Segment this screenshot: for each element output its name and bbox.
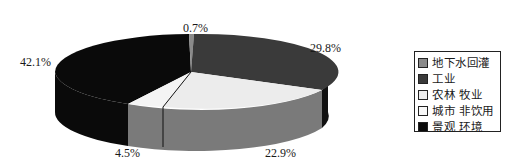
legend-swatch (418, 122, 428, 132)
legend-label: 农林 牧业 (432, 88, 482, 102)
legend-swatch (418, 58, 428, 68)
label-landscape-pct: 42.1% (20, 56, 51, 68)
label-agriculture-pct: 22.9% (265, 147, 296, 159)
legend: 地下水回灌 工业 农林 牧业 城市 非饮用 景观 环境 (414, 51, 501, 132)
legend-swatch (418, 106, 428, 116)
legend-label: 工业 (432, 72, 455, 86)
legend-item-urban: 城市 非饮用 (418, 103, 500, 119)
legend-swatch (418, 90, 428, 100)
legend-item-landscape: 景观 环境 (418, 119, 500, 135)
label-recharge-pct: 0.7% (183, 22, 208, 34)
pie-chart: 0.7% 29.8% 22.9% 4.5% 42.1% 地下水回灌 工业 农林 … (0, 0, 519, 166)
label-industry-pct: 29.8% (310, 42, 341, 54)
legend-swatch (418, 74, 428, 84)
legend-label: 地下水回灌 (432, 56, 490, 70)
label-urban-pct: 4.5% (115, 147, 140, 159)
legend-label: 城市 非饮用 (432, 104, 494, 118)
legend-label: 景观 环境 (432, 120, 482, 134)
legend-item-agriculture: 农林 牧业 (418, 87, 500, 103)
legend-item-recharge: 地下水回灌 (418, 55, 500, 71)
legend-item-industry: 工业 (418, 71, 500, 87)
